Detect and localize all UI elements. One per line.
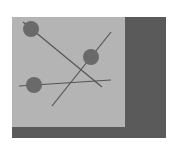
node-1-circle	[23, 21, 39, 37]
node-3-circle	[26, 77, 42, 93]
diagram-canvas	[0, 0, 176, 146]
node-2-circle	[83, 49, 99, 65]
